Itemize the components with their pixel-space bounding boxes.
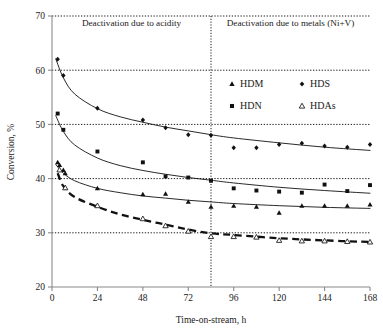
- data-point-hdn-12: [345, 189, 349, 193]
- data-point-hdn-10: [300, 191, 304, 195]
- y-tick-label-50: 50: [36, 120, 46, 130]
- y-tick-label-20: 20: [36, 282, 46, 292]
- data-point-hdn-1: [61, 128, 65, 132]
- legend-marker-hdn: [230, 104, 234, 108]
- x-tick-label-168: 168: [363, 293, 378, 303]
- data-point-hdn-0: [56, 112, 60, 116]
- data-point-hdn-8: [254, 189, 258, 193]
- x-axis-title: Time-on-stream, h: [176, 315, 247, 325]
- data-point-hdn-13: [368, 183, 372, 187]
- x-tick-label-48: 48: [138, 293, 148, 303]
- y-tick-label-70: 70: [36, 11, 46, 21]
- chart-figure: 203040506070 024487296120144168 Deactiva…: [0, 0, 383, 332]
- y-axis-title: Conversion, %: [6, 124, 16, 181]
- y-tick-label-30: 30: [36, 228, 46, 238]
- region-label-metals: Deactivation due to metals (Ni+V): [227, 18, 355, 28]
- x-tick-label-144: 144: [317, 293, 332, 303]
- x-tick-label-24: 24: [93, 293, 103, 303]
- legend-label-hdn: HDN: [240, 100, 262, 111]
- region-label-acidity: Deactivation due to acidity: [82, 18, 182, 28]
- legend-label-hdm: HDM: [240, 78, 263, 89]
- y-tick-label-40: 40: [36, 174, 46, 184]
- data-point-hdn-3: [141, 160, 145, 164]
- legend-label-hdas: HDAs: [310, 100, 336, 111]
- y-tick-label-60: 60: [36, 66, 46, 76]
- x-tick-label-96: 96: [229, 293, 239, 303]
- data-point-hdn-5: [186, 176, 190, 180]
- data-point-hdn-7: [232, 186, 236, 190]
- data-point-hdn-6: [209, 179, 213, 183]
- data-point-hdn-4: [164, 174, 168, 178]
- legend-label-hds: HDS: [310, 78, 330, 89]
- data-point-hdn-9: [277, 190, 281, 194]
- x-tick-label-72: 72: [184, 293, 194, 303]
- x-tick-label-0: 0: [50, 293, 55, 303]
- x-tick-label-120: 120: [272, 293, 287, 303]
- data-point-hdn-2: [95, 150, 99, 154]
- data-point-hdn-11: [323, 183, 327, 187]
- chart-canvas: 203040506070 024487296120144168 Deactiva…: [0, 0, 383, 332]
